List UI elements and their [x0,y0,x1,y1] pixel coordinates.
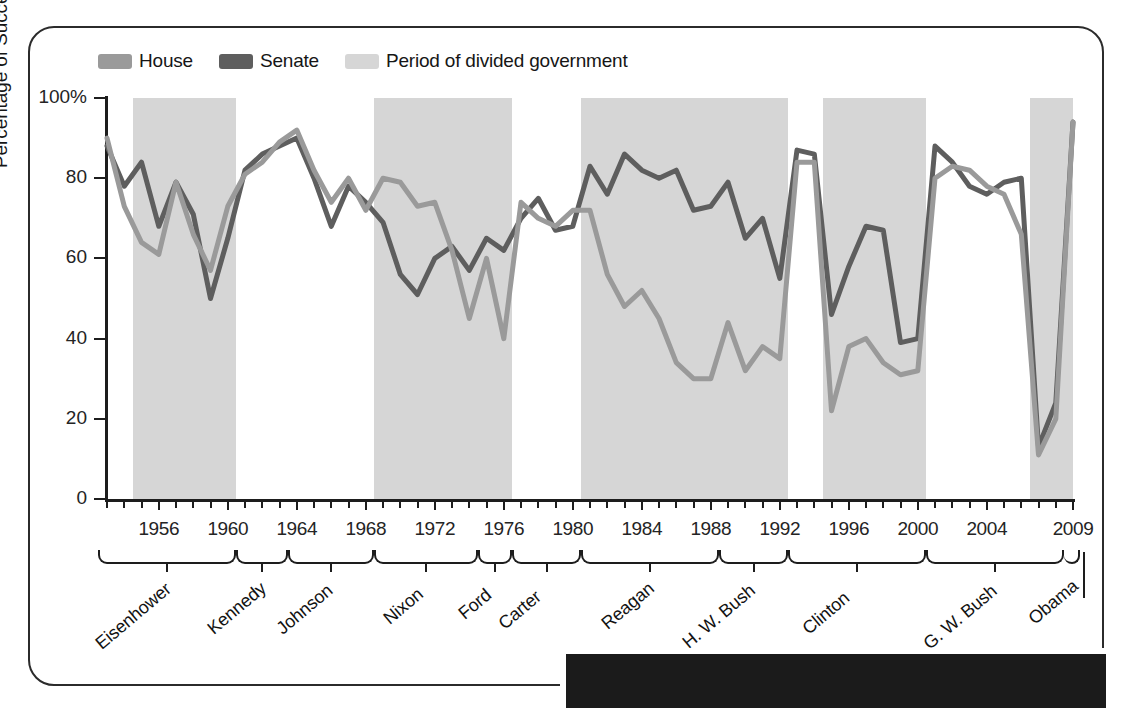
x-tick-1957 [175,499,177,508]
president-bracket-reagan [581,550,719,564]
y-tick-label-80: 80 [0,166,87,188]
x-tick-1970 [399,499,401,508]
bracket-stem-4 [494,563,496,572]
president-bracket-gwbush [926,550,1064,564]
bracket-stem-2 [330,563,332,572]
x-tick-1980 [572,499,574,510]
bracket-stem-1 [261,563,263,572]
x-tick-label-1980: 1980 [538,518,608,540]
president-bracket-ford [478,550,513,564]
y-tick-label-100: 100% [0,86,87,108]
x-tick-2007 [1038,499,1040,508]
x-tick-1997 [865,499,867,508]
timeline-end-bar [1083,552,1085,598]
y-tick-0 [94,498,106,500]
x-tick-label-1984: 1984 [607,518,677,540]
x-tick-2005 [1003,499,1005,508]
y-tick-20 [94,418,106,420]
x-tick-1989 [727,499,729,508]
y-tick-label-60: 60 [0,246,87,268]
y-tick-40 [94,338,106,340]
bracket-stem-5 [546,563,548,572]
x-tick-label-1964: 1964 [262,518,332,540]
x-tick-1976 [503,499,505,510]
x-tick-1993 [796,499,798,508]
y-tick-label-20: 20 [0,407,87,429]
x-tick-1985 [658,499,660,508]
x-tick-1987 [693,499,695,508]
x-tick-1973 [451,499,453,508]
x-tick-label-1992: 1992 [745,518,815,540]
x-tick-1984 [641,499,643,510]
x-tick-1961 [244,499,246,508]
bracket-stem-6 [649,563,651,572]
y-tick-80 [94,177,106,179]
x-tick-1963 [279,499,281,508]
x-tick-1955 [141,499,143,508]
x-tick-1975 [486,499,488,508]
bracket-stem-9 [994,563,996,572]
x-tick-1983 [624,499,626,508]
x-tick-2001 [934,499,936,508]
x-tick-2006 [1020,499,1022,508]
president-bracket-clinton [788,550,926,564]
x-tick-1962 [261,499,263,508]
president-bracket-carter [512,550,581,564]
chart-page: House Senate Period of divided governmen… [0,0,1129,708]
x-tick-1978 [537,499,539,508]
x-tick-2003 [969,499,971,508]
x-tick-2002 [951,499,953,508]
x-tick-1982 [606,499,608,508]
x-tick-label-1968: 1968 [331,518,401,540]
president-bracket-johnson [288,550,374,564]
x-tick-1974 [468,499,470,508]
x-tick-1971 [417,499,419,508]
x-tick-1986 [675,499,677,508]
x-tick-label-1996: 1996 [814,518,884,540]
x-tick-2000 [917,499,919,510]
bracket-stem-3 [425,563,427,572]
black-block [566,654,1106,708]
x-tick-1956 [158,499,160,510]
x-tick-1953 [106,499,108,508]
x-tick-label-2000: 2000 [883,518,953,540]
bracket-stem-7 [753,563,755,572]
president-bracket-eisenhower [98,550,236,564]
x-tick-1996 [848,499,850,510]
x-tick-1967 [348,499,350,508]
x-tick-1965 [313,499,315,508]
x-tick-1960 [227,499,229,510]
x-tick-1968 [365,499,367,510]
x-tick-1972 [434,499,436,510]
y-tick-label-40: 40 [0,327,87,349]
x-tick-1991 [762,499,764,508]
x-tick-1979 [555,499,557,508]
series-lines [0,0,1129,708]
x-tick-1995 [831,499,833,508]
x-tick-2009 [1072,499,1074,510]
x-tick-label-1960: 1960 [193,518,263,540]
x-tick-1992 [779,499,781,510]
x-tick-1977 [520,499,522,508]
x-tick-2004 [986,499,988,510]
x-tick-1998 [882,499,884,508]
x-tick-1958 [192,499,194,508]
x-tick-2008 [1055,499,1057,508]
x-tick-label-1976: 1976 [469,518,539,540]
x-tick-label-1988: 1988 [676,518,746,540]
x-tick-label-1972: 1972 [400,518,470,540]
x-tick-1969 [382,499,384,508]
x-tick-1994 [813,499,815,508]
x-tick-1954 [123,499,125,508]
president-bracket-kennedy [236,550,288,564]
bracket-stem-0 [166,563,168,572]
x-tick-1964 [296,499,298,510]
president-bracket-nixon [374,550,478,564]
bracket-stem-8 [856,563,858,572]
x-tick-label-2004: 2004 [952,518,1022,540]
y-tick-60 [94,257,106,259]
x-tick-label-1956: 1956 [124,518,194,540]
x-tick-1988 [710,499,712,510]
x-tick-1981 [589,499,591,508]
y-tick-label-0: 0 [0,487,87,509]
